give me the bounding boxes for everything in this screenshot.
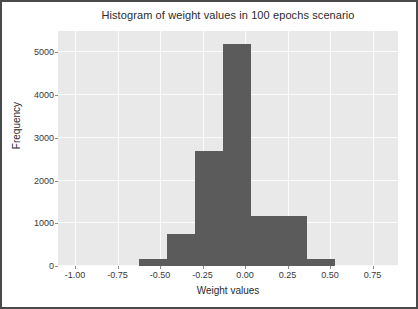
x-axis-tick-labels: -1.00-0.75-0.50-0.250.000.250.500.75 xyxy=(58,270,398,282)
gridline-vertical xyxy=(75,31,76,266)
x-axis-tickmark xyxy=(288,266,289,269)
x-axis-tick-label: -1.00 xyxy=(65,270,86,280)
y-axis-tick-label: 5000 xyxy=(34,47,54,57)
y-axis-tick-label: 1000 xyxy=(34,218,54,228)
histogram-bar xyxy=(251,216,279,266)
histogram-bar xyxy=(139,259,167,266)
x-axis-tickmark xyxy=(373,266,374,269)
histogram-bar xyxy=(279,216,307,266)
y-axis-tickmark xyxy=(55,52,58,53)
gridline-vertical xyxy=(118,31,119,266)
y-axis-tick-label: 3000 xyxy=(34,133,54,143)
histogram-bar xyxy=(307,259,335,266)
gridline-vertical xyxy=(373,31,374,266)
histogram-bar xyxy=(167,234,195,266)
histogram-bar xyxy=(223,44,251,266)
histogram-bar xyxy=(195,151,223,266)
x-axis-tickmark xyxy=(75,266,76,269)
x-axis-tickmark xyxy=(160,266,161,269)
y-axis-tick-label: 4000 xyxy=(34,90,54,100)
x-axis-tick-label: 0.00 xyxy=(236,270,254,280)
x-axis-label: Weight values xyxy=(58,285,398,296)
x-axis-tickmark xyxy=(330,266,331,269)
chart-title: Histogram of weight values in 100 epochs… xyxy=(58,9,398,21)
x-axis-tick-label: 0.25 xyxy=(279,270,297,280)
x-axis-tickmark xyxy=(118,266,119,269)
y-axis-tickmark xyxy=(55,266,58,267)
x-axis-tickmark xyxy=(245,266,246,269)
x-axis-tickmark xyxy=(203,266,204,269)
x-axis-tick-label: 0.75 xyxy=(364,270,382,280)
y-axis-tickmark xyxy=(55,223,58,224)
x-axis-tick-label: -0.50 xyxy=(150,270,171,280)
x-axis-tick-label: -0.25 xyxy=(192,270,213,280)
y-axis-tickmark xyxy=(55,138,58,139)
gridline-vertical xyxy=(330,31,331,266)
x-axis-tick-label: -0.75 xyxy=(107,270,128,280)
y-axis-label: Frequency xyxy=(11,86,22,166)
y-axis-tick-label: 2000 xyxy=(34,176,54,186)
y-axis-tickmark xyxy=(55,95,58,96)
y-axis-tick-label: 0 xyxy=(49,261,54,271)
x-axis-tick-label: 0.50 xyxy=(321,270,339,280)
plot-area xyxy=(58,31,398,266)
chart-figure: Histogram of weight values in 100 epochs… xyxy=(0,0,418,309)
y-axis-tickmark xyxy=(55,181,58,182)
gridline-vertical xyxy=(160,31,161,266)
